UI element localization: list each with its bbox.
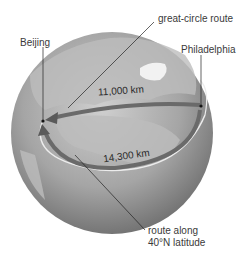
great-circle-label: great-circle route [158,13,233,24]
globe-diagram: great-circle route Beijing Philadelphia … [0,0,249,256]
beijing-label: Beijing [20,37,50,48]
philadelphia-label: Philadelphia [181,44,236,55]
route-along-label-line2: 40°N latitude [148,237,205,248]
route-along-label-line1: route along [148,225,198,236]
